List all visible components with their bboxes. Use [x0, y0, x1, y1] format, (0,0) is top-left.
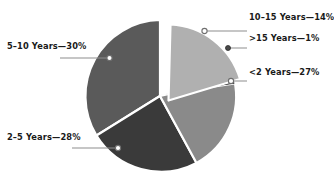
marker-gt-15-years [226, 46, 231, 51]
pie-label-lt-2-years: <2 Years—27% [249, 67, 320, 77]
marker-lt-2-years [228, 78, 233, 83]
pie-chart-canvas: 10–15 Years—14% >15 Years—1% <2 Years—27… [0, 0, 334, 189]
pie-label-2-5-years: 2–5 Years—28% [7, 132, 81, 142]
pie-label-5-10-years: 5–10 Years—30% [7, 41, 87, 51]
marker-5-10-years [107, 55, 112, 60]
pie-label-10-15-years: 10–15 Years—14% [249, 12, 334, 22]
marker-10-15-years [202, 28, 207, 33]
pie-label-gt-15-years: >15 Years—1% [249, 33, 320, 43]
pie-chart-figure: 10–15 Years—14% >15 Years—1% <2 Years—27… [0, 0, 334, 189]
marker-2-5-years [115, 145, 120, 150]
